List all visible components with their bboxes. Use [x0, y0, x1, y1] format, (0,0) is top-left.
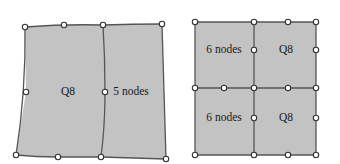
- left-corner-node-8: [13, 152, 18, 157]
- right-element-face-2: [254, 22, 316, 88]
- right-midside-node-6: [313, 47, 318, 52]
- mesh-figure-canvas: Q85 nodes 6 nodesQ86 nodesQ8: [0, 0, 340, 164]
- right-midside-node-3: [285, 19, 290, 24]
- right-corner-node-9: [251, 85, 256, 90]
- left-element-label-2: 5 nodes: [113, 85, 149, 97]
- left-midside-node-10: [102, 89, 107, 94]
- right-midside-node-5: [251, 47, 256, 52]
- left-diagram: Q85 nodes: [13, 21, 168, 161]
- right-element-face-1: [195, 22, 254, 88]
- right-midside-node-13: [313, 115, 318, 120]
- right-corner-node-2: [251, 19, 256, 24]
- right-element-label-4: Q8: [279, 111, 293, 123]
- right-corner-node-1: [192, 19, 197, 24]
- left-corner-node-5: [163, 156, 168, 161]
- left-corner-node-3: [100, 22, 105, 27]
- right-midside-node-12: [251, 115, 256, 120]
- right-corner-node-4: [313, 19, 318, 24]
- right-midside-node-10: [285, 85, 290, 90]
- right-corner-node-11: [313, 85, 318, 90]
- right-corner-node-7: [192, 85, 197, 90]
- left-midside-node-7: [55, 154, 60, 159]
- right-element-label-3: 6 nodes: [206, 111, 242, 123]
- right-element-label-1: 6 nodes: [206, 43, 242, 55]
- right-corner-node-14: [192, 152, 197, 157]
- left-element-label-1: Q8: [61, 85, 75, 97]
- left-midside-node-9: [23, 89, 28, 94]
- right-midside-node-8: [221, 85, 226, 90]
- right-element-label-2: Q8: [279, 43, 293, 55]
- right-diagram: 6 nodesQ86 nodesQ8: [192, 19, 318, 157]
- left-midside-node-2: [61, 22, 66, 27]
- right-corner-node-17: [313, 152, 318, 157]
- figure-root: Q85 nodes 6 nodesQ86 nodesQ8: [0, 0, 340, 164]
- left-corner-node-4: [159, 21, 164, 26]
- right-corner-node-15: [251, 152, 256, 157]
- right-midside-node-16: [285, 152, 290, 157]
- left-corner-node-6: [98, 154, 103, 159]
- left-corner-node-1: [22, 24, 27, 29]
